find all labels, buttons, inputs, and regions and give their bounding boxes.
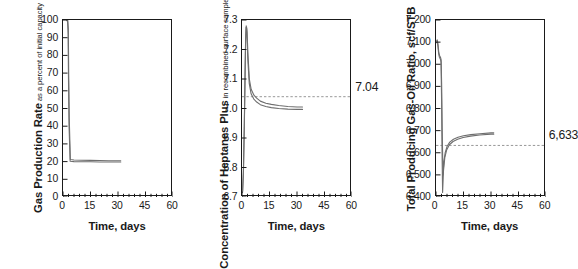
y-tick-label: 70: [20, 67, 58, 78]
x-tick-label: 30: [291, 200, 302, 211]
y-tick-label: 7,000: [393, 58, 431, 69]
y-tick-label: 7.1: [199, 73, 237, 84]
y-tick-label: 6,400: [393, 191, 431, 202]
x-tick-label: 30: [484, 200, 495, 211]
plot-area-panel-3: [435, 19, 545, 196]
y-tick-label: 6,800: [393, 102, 431, 113]
x-tick-label: 60: [166, 200, 177, 211]
x-tick-label: 0: [239, 200, 245, 211]
x-tick-label: 45: [139, 200, 150, 211]
data-curve-lower-bound-panel-2: [243, 27, 303, 192]
x-axis-title-panel-3: Time, days: [461, 220, 518, 232]
y-axis-title-main-2: Concentration of Heptanes Plus: [218, 100, 230, 268]
x-tick-label: 45: [318, 200, 329, 211]
y-tick-label: 50: [20, 102, 58, 113]
x-tick-label: 45: [512, 200, 523, 211]
chart-canvas-panel-3: [436, 20, 546, 197]
y-tick-label: 0: [20, 191, 58, 202]
chart-panel-gas-production-rate: Gas Production Rate as a percent of init…: [0, 0, 186, 257]
y-tick-label: 6,500: [393, 168, 431, 179]
y-tick-label: 100: [20, 14, 58, 25]
chart-canvas-panel-2: [242, 20, 352, 197]
x-tick-label: 60: [539, 200, 550, 211]
annotation-label-panel-3: 6,633: [549, 128, 578, 142]
plot-area-panel-1: [62, 19, 172, 196]
plot-area-panel-2: [241, 19, 351, 196]
y-tick-label: 7.3: [199, 14, 237, 25]
y-tick-label: 6,900: [393, 80, 431, 91]
chart-canvas-panel-1: [63, 20, 173, 197]
y-tick-label: 30: [20, 137, 58, 148]
y-tick-label: 10: [20, 173, 58, 184]
y-tick-label: 7.2: [199, 43, 237, 54]
y-tick-label: 80: [20, 49, 58, 60]
data-curve-lower-bound-panel-3: [436, 42, 493, 193]
x-axis-title-panel-2: Time, days: [268, 220, 325, 232]
x-tick-label: 15: [84, 200, 95, 211]
y-tick-label: 6.8: [199, 161, 237, 172]
y-tick-label: 7.0: [199, 102, 237, 113]
x-tick-label: 60: [346, 200, 357, 211]
y-tick-label: 6,600: [393, 146, 431, 157]
y-tick-label: 6,700: [393, 124, 431, 135]
x-tick-label: 30: [111, 200, 122, 211]
x-tick-label: 15: [457, 200, 468, 211]
data-curve-upper-bound-panel-1: [67, 20, 121, 161]
chart-panel-total-producing-gor: Total Producing Gas-Oil Ratio, scf/STB 6…: [373, 0, 559, 257]
y-tick-label: 20: [20, 155, 58, 166]
y-tick-label: 7,200: [393, 14, 431, 25]
x-tick-label: 0: [432, 200, 438, 211]
data-curve-upper-bound-panel-2: [243, 26, 303, 191]
chart-panel-heptanes-plus-concentration: Concentration of Heptanes Plus in recomb…: [186, 0, 372, 257]
data-curve-lower-bound-panel-1: [67, 20, 121, 162]
y-tick-label: 6.9: [199, 132, 237, 143]
y-tick-label: 6.7: [199, 191, 237, 202]
x-tick-label: 15: [263, 200, 274, 211]
y-tick-label: 90: [20, 31, 58, 42]
y-tick-label: 40: [20, 120, 58, 131]
x-tick-label: 0: [59, 200, 65, 211]
x-axis-title-panel-1: Time, days: [88, 220, 145, 232]
y-tick-label: 7,100: [393, 36, 431, 47]
y-tick-label: 60: [20, 84, 58, 95]
